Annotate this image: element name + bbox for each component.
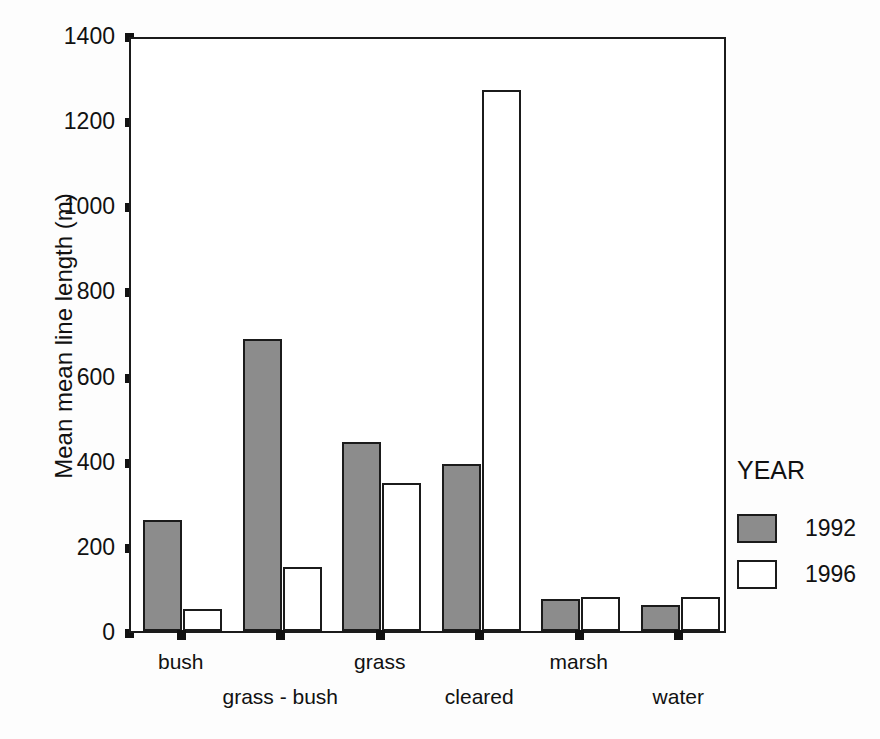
- legend-item-1992: 1992: [737, 505, 877, 551]
- x-axis-tick-mark: [475, 630, 484, 640]
- y-axis-tick-label: 400: [77, 451, 115, 474]
- bar-grass-1996: [382, 483, 421, 631]
- y-axis-tick-label: 1000: [64, 195, 115, 218]
- y-axis-tick-label: 200: [77, 536, 115, 559]
- x-axis-tick-mark: [276, 630, 285, 640]
- bar-grass-1992: [342, 442, 381, 631]
- legend-item-1996: 1996: [737, 551, 877, 597]
- bar-water-1996: [681, 597, 720, 631]
- bar-chart-figure: Mean mean line length (m) 02004006008001…: [0, 0, 880, 739]
- legend-title: YEAR: [737, 457, 877, 483]
- x-axis-tick-mark: [376, 630, 385, 640]
- legend-swatch-1992-icon: [737, 514, 777, 543]
- x-axis-tick-label: grass: [354, 651, 405, 673]
- y-axis-tick-label: 600: [77, 366, 115, 389]
- x-axis-tick-label: grass - bush: [222, 686, 338, 708]
- x-axis-tick-label: water: [653, 686, 704, 708]
- bar-marsh-1992: [541, 599, 580, 631]
- y-axis-tick-label: 0: [102, 621, 115, 644]
- bar-marsh-1996: [581, 597, 620, 631]
- y-axis-tick-label: 1400: [64, 25, 115, 48]
- y-axis-title: Mean mean line length (m): [50, 56, 78, 616]
- x-axis-tick-label: marsh: [550, 651, 608, 673]
- legend-swatch-1996-icon: [737, 560, 777, 589]
- legend: YEAR 1992 1996: [737, 457, 877, 597]
- x-axis-tick-label: cleared: [445, 686, 514, 708]
- bar-water-1992: [641, 605, 680, 631]
- legend-label-1992: 1992: [805, 516, 856, 540]
- legend-label-1996: 1996: [805, 562, 856, 586]
- bar-grass-bush-1992: [243, 339, 282, 631]
- bar-bush-1992: [143, 520, 182, 631]
- bar-cleared-1992: [442, 464, 481, 631]
- x-axis-tick-mark: [674, 630, 683, 640]
- bar-bush-1996: [183, 609, 222, 631]
- bar-grass-bush-1996: [283, 567, 322, 631]
- plot-area: [129, 37, 726, 633]
- bar-cleared-1996: [482, 90, 521, 631]
- x-axis-tick-label: bush: [158, 651, 204, 673]
- x-axis-tick-mark: [575, 630, 584, 640]
- x-axis-tick-mark: [177, 630, 186, 640]
- y-axis-tick-label: 1200: [64, 110, 115, 133]
- y-axis-tick-label: 800: [77, 280, 115, 303]
